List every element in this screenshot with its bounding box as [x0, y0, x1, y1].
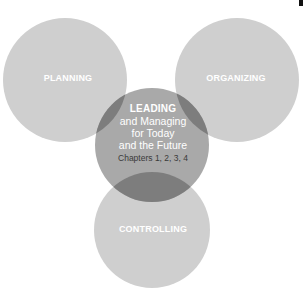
- venn-diagram: PLANNING ORGANIZING CONTROLLING LEADING …: [0, 0, 303, 298]
- controlling-label: CONTROLLING: [119, 224, 187, 234]
- chapters-label: Chapters 1, 2, 3, 4: [118, 153, 188, 163]
- planning-label: PLANNING: [44, 73, 93, 83]
- leading-label: LEADING: [130, 103, 176, 114]
- leading-line-3: and the Future: [119, 139, 187, 151]
- leading-line-1: and Managing: [120, 115, 187, 127]
- organizing-label: ORGANIZING: [206, 73, 266, 83]
- leading-line-2: for Today: [132, 127, 176, 139]
